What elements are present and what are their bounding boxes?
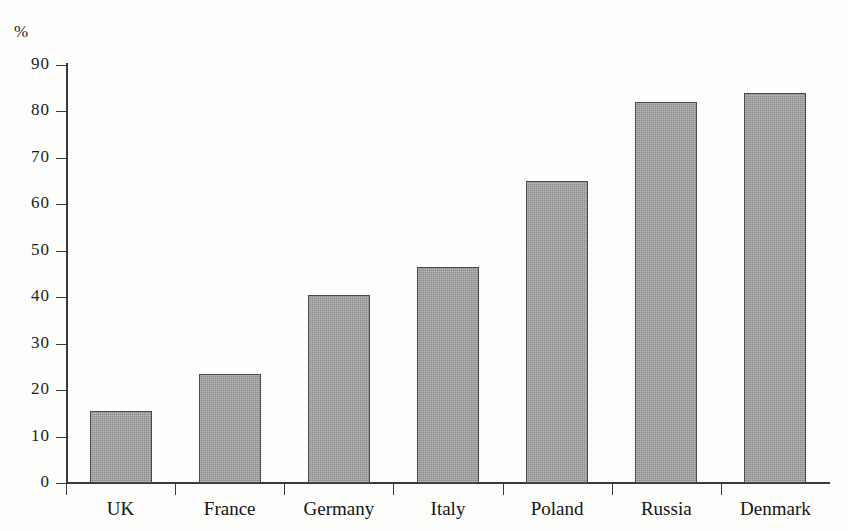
x-axis-category-label: France — [175, 498, 284, 520]
y-axis-tick-label: 40 — [31, 286, 50, 306]
x-axis-tick-mark — [612, 484, 613, 495]
x-axis-category-label: Germany — [284, 498, 393, 520]
y-axis-tick-label: 90 — [31, 54, 50, 74]
bar — [744, 93, 806, 483]
x-axis-tick-mark — [503, 484, 504, 495]
y-axis-tick-mark — [56, 251, 66, 252]
bar — [199, 374, 261, 483]
bar — [308, 295, 370, 483]
bar — [526, 181, 588, 483]
y-axis-tick-label: 70 — [31, 147, 50, 167]
plot-area — [66, 65, 830, 483]
bar — [90, 411, 152, 483]
x-axis-category-label: Denmark — [721, 498, 830, 520]
x-axis-tick-mark — [721, 484, 722, 495]
y-axis-tick-label: 50 — [31, 240, 50, 260]
x-axis-tick-mark — [66, 484, 67, 495]
x-axis-category-label: UK — [66, 498, 175, 520]
y-axis-tick-label: 80 — [31, 100, 50, 120]
y-axis-tick-mark — [56, 344, 66, 345]
y-axis-tick-mark — [56, 437, 66, 438]
x-axis-category-label: Russia — [612, 498, 721, 520]
y-axis-tick-mark — [56, 111, 66, 112]
y-axis-tick-mark — [56, 204, 66, 205]
y-axis-tick-mark — [56, 297, 66, 298]
x-axis-category-label: Poland — [503, 498, 612, 520]
bar — [635, 102, 697, 483]
y-axis-tick-label: 60 — [31, 193, 50, 213]
y-axis-tick-label: 20 — [31, 379, 50, 399]
x-axis-tick-mark — [284, 484, 285, 495]
y-axis-tick-mark — [56, 65, 66, 66]
y-axis-tick-mark — [56, 390, 66, 391]
bar-chart: % 0102030405060708090 UKFranceGermanyIta… — [0, 0, 848, 531]
y-axis-tick-label: 10 — [31, 426, 50, 446]
x-axis-tick-mark — [393, 484, 394, 495]
x-axis-category-label: Italy — [393, 498, 502, 520]
y-axis-unit-label: % — [14, 22, 29, 42]
x-axis-tick-mark — [175, 484, 176, 495]
y-axis-tick-label: 0 — [41, 472, 51, 492]
y-axis-tick-mark — [56, 483, 66, 484]
y-axis-tick-label: 30 — [31, 333, 50, 353]
bar — [417, 267, 479, 483]
y-axis-tick-mark — [56, 158, 66, 159]
